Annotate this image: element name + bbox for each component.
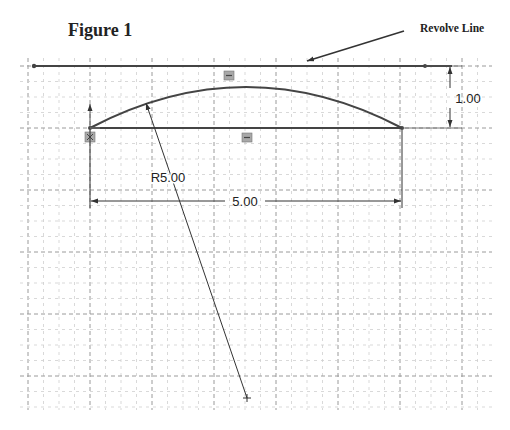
height-dimension-label[interactable]: 1.00 [455,91,480,106]
width-dimension-label[interactable]: 5.00 [232,194,257,209]
sketch-canvas[interactable]: 1.00 5.00 R5.00 [0,0,510,430]
horizontal-relation-icon[interactable] [242,133,252,142]
radius-dimension-label[interactable]: R5.00 [151,170,186,185]
callout-arrow [307,31,404,61]
horizontal-relation-icon[interactable] [224,71,234,80]
arc-center-icon [243,394,251,402]
revolve-line[interactable] [32,64,452,68]
endpoint-icon[interactable] [32,64,36,68]
sketch-grid [20,58,492,410]
